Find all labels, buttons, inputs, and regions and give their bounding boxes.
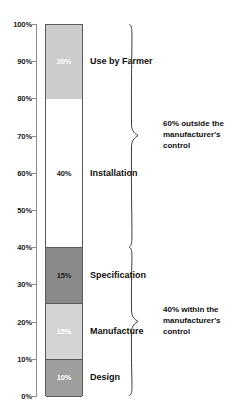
brace-outside-control bbox=[128, 24, 139, 247]
y-tick-mark bbox=[32, 136, 37, 137]
segment-value-label: 15% bbox=[57, 272, 72, 280]
y-tick-mark bbox=[32, 24, 37, 25]
segment-value-label: 40% bbox=[57, 170, 72, 178]
bar-segment-installation: 40% bbox=[46, 99, 82, 248]
bar-segment-manufacture: 15% bbox=[46, 304, 82, 360]
stacked-bar: 10%15%15%40%20% bbox=[45, 24, 83, 396]
y-tick-label: 20% bbox=[0, 318, 32, 326]
annotation-text-outside-control: 60% outside the manufacturer's control bbox=[163, 118, 246, 152]
stacked-bar-chart-figure: 0%10%20%30%40%50%60%70%80%90%100% 10%15%… bbox=[0, 0, 246, 419]
y-tick-mark bbox=[32, 322, 37, 323]
bar-segment-use-by-farmer: 20% bbox=[46, 25, 82, 99]
annotation-text-within-control: 40% within the manufacturer's control bbox=[163, 304, 246, 338]
y-tick-mark bbox=[32, 284, 37, 285]
y-tick-mark bbox=[32, 61, 37, 62]
y-tick-mark bbox=[32, 173, 37, 174]
y-tick-label: 80% bbox=[0, 95, 32, 103]
y-tick-label: 60% bbox=[0, 169, 32, 177]
segment-value-label: 10% bbox=[57, 374, 72, 382]
y-tick-label: 90% bbox=[0, 58, 32, 66]
y-tick-label: 70% bbox=[0, 132, 32, 140]
y-tick-label: 10% bbox=[0, 355, 32, 363]
y-tick-mark bbox=[32, 396, 37, 397]
bar-segment-specification: 15% bbox=[46, 248, 82, 304]
segment-value-label: 20% bbox=[57, 58, 72, 66]
bar-segment-design: 10% bbox=[46, 360, 82, 397]
y-tick-mark bbox=[32, 98, 37, 99]
y-tick-label: 50% bbox=[0, 207, 32, 215]
category-label-use-by-farmer: Use by Farmer bbox=[90, 57, 153, 66]
y-tick-label: 100% bbox=[0, 21, 32, 29]
y-tick-mark bbox=[32, 210, 37, 211]
y-tick-label: 0% bbox=[0, 393, 32, 401]
brace-within-control bbox=[128, 247, 139, 396]
y-tick-label: 30% bbox=[0, 281, 32, 289]
plot-area: 0%10%20%30%40%50%60%70%80%90%100% 10%15%… bbox=[0, 0, 246, 419]
category-label-design: Design bbox=[90, 373, 120, 382]
y-tick-mark bbox=[32, 359, 37, 360]
y-tick-mark bbox=[32, 247, 37, 248]
y-tick-label: 40% bbox=[0, 244, 32, 252]
segment-value-label: 15% bbox=[57, 328, 72, 336]
